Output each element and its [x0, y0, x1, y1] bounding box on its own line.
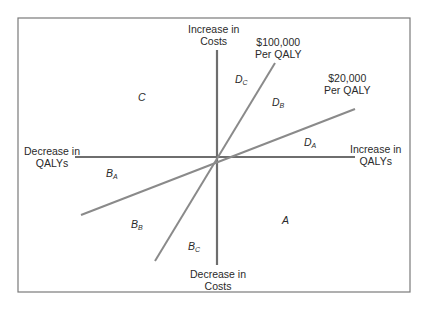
- region-letter: B: [131, 218, 138, 230]
- axis-label-line: QALYs: [350, 155, 401, 167]
- threshold-line-100000: [155, 63, 275, 261]
- threshold-label-line: $100,000: [255, 36, 302, 48]
- region-letter: D: [235, 73, 243, 85]
- axis-label-line: Decrease in: [190, 268, 246, 280]
- axis-label-line: Costs: [188, 35, 239, 47]
- axis-label-line: Costs: [190, 280, 246, 292]
- threshold-label-line: Per QALY: [324, 84, 371, 96]
- axis-label-increase-costs: Increase in Costs: [188, 23, 239, 47]
- region-c: C: [138, 91, 146, 103]
- axis-label-decrease-qalys: Decrease in QALYs: [24, 145, 80, 169]
- region-letter: A: [282, 214, 289, 226]
- threshold-label-line: $20,000: [324, 72, 371, 84]
- region-letter: D: [304, 136, 312, 148]
- region-ba: BA: [106, 167, 118, 180]
- region-a: A: [282, 214, 289, 226]
- region-da: DA: [304, 136, 316, 149]
- threshold-label-line: Per QALY: [255, 48, 302, 60]
- axis-label-increase-qalys: Increase in QALYs: [350, 143, 401, 167]
- region-letter: B: [106, 167, 113, 179]
- axis-label-line: Increase in: [350, 143, 401, 155]
- region-bc: BC: [188, 240, 200, 253]
- region-letter: D: [272, 96, 280, 108]
- region-bb: BB: [131, 218, 143, 231]
- region-subscript: B: [280, 102, 285, 109]
- region-subscript: A: [113, 173, 118, 180]
- axis-label-line: Decrease in: [24, 145, 80, 157]
- region-subscript: C: [195, 246, 200, 253]
- threshold-label-20000: $20,000 Per QALY: [324, 72, 371, 96]
- region-subscript: C: [243, 79, 248, 86]
- region-letter: B: [188, 240, 195, 252]
- axis-label-line: QALYs: [24, 157, 80, 169]
- region-subscript: B: [138, 224, 143, 231]
- threshold-label-100000: $100,000 Per QALY: [255, 36, 302, 60]
- region-dc: DC: [235, 73, 248, 86]
- axis-label-line: Increase in: [188, 23, 239, 35]
- region-db: DB: [272, 96, 284, 109]
- region-letter: C: [138, 91, 146, 103]
- region-subscript: A: [312, 142, 317, 149]
- axis-label-decrease-costs: Decrease in Costs: [190, 268, 246, 292]
